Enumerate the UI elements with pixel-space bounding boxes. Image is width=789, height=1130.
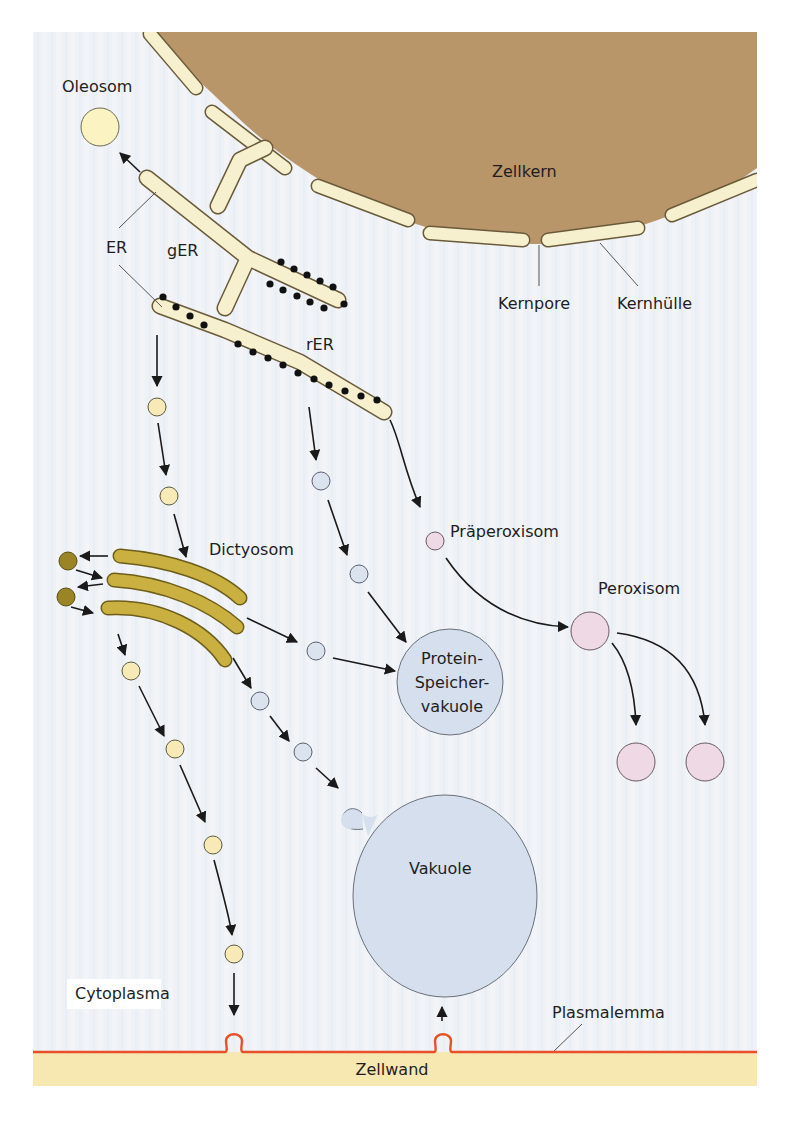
label-kernhuelle: Kernhülle <box>617 294 692 313</box>
vesicle <box>312 472 330 490</box>
vesicle <box>307 642 325 660</box>
peroxisome-daughter <box>686 743 724 781</box>
vesicle <box>122 662 140 680</box>
label-zellwand: Zellwand <box>356 1060 429 1079</box>
label-rer: rER <box>306 335 334 354</box>
label-protein: Protein- <box>421 649 483 668</box>
label-praeperoxisom: Präperoxisom <box>450 522 559 541</box>
cell-secretion-diagram: Oleosom Zellkern ER gER rER Kernpore Ker… <box>0 0 789 1130</box>
label-dictyosom: Dictyosom <box>209 540 294 559</box>
label-kernpore: Kernpore <box>498 294 570 313</box>
label-cytoplasma: Cytoplasma <box>75 984 170 1003</box>
golgi-vesicle <box>59 552 77 570</box>
golgi-vesicle <box>57 588 75 606</box>
oleosome <box>81 108 119 146</box>
peroxisome <box>571 612 609 650</box>
peroxisome-daughter <box>617 743 655 781</box>
vesicle <box>160 487 178 505</box>
vesicle <box>148 398 166 416</box>
preperoxisome <box>426 532 444 550</box>
vesicle <box>350 565 368 583</box>
label-vakuole: Vakuole <box>409 859 472 878</box>
label-plasmalemma: Plasmalemma <box>552 1003 665 1022</box>
vesicle <box>294 743 312 761</box>
label-zellkern: Zellkern <box>492 162 557 181</box>
label-oleosom: Oleosom <box>62 77 132 96</box>
label-speicher: Speicher- <box>415 673 490 692</box>
label-peroxisom: Peroxisom <box>598 579 680 598</box>
vesicle <box>225 945 243 963</box>
vesicle <box>204 836 222 854</box>
label-er: ER <box>106 238 127 257</box>
label-ger: gER <box>167 241 198 260</box>
vesicle <box>251 692 269 710</box>
label-vakuole-protein: vakuole <box>421 697 483 716</box>
vesicle <box>166 740 184 758</box>
